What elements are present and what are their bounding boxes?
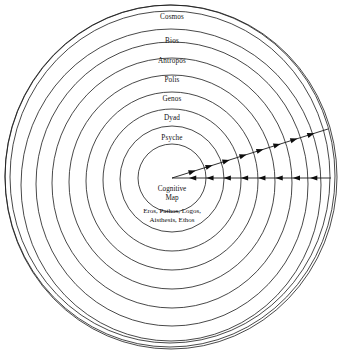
ring-label-genos: Genos (162, 95, 181, 103)
arrowhead-outward-ray-5 (256, 149, 264, 154)
arrowhead-outward-ray-1 (188, 170, 196, 175)
ring-label-cosmos: Cosmos (160, 13, 184, 21)
arrowhead-outward-ray-2 (205, 165, 213, 170)
arrowhead-outward-ray-4 (239, 154, 247, 159)
arrowhead-outward-ray-3 (222, 160, 230, 165)
ring-label-polis: Polis (164, 76, 179, 84)
arrowhead-outward-ray-7 (290, 138, 298, 143)
rays-group (172, 129, 331, 181)
ring-label-dyad: Dyad (164, 114, 180, 122)
arrowhead-inward-ray-7 (293, 175, 300, 180)
arrowhead-inward-ray-4 (241, 175, 248, 180)
ray-inward-ray (172, 175, 331, 180)
center-label-line1: Cognitive (158, 185, 186, 194)
arrowhead-inward-ray-2 (206, 175, 213, 180)
arrowhead-inward-ray-1 (189, 175, 196, 180)
diagram-canvas (0, 0, 340, 353)
center-label-line2: Map (158, 194, 186, 203)
arrowhead-inward-ray-5 (258, 175, 265, 180)
ring-label-psyche: Psyche (161, 134, 182, 142)
center-sublabel-line1: Eros, Pathos, Logos, (143, 207, 201, 216)
ring-3 (103, 109, 241, 251)
center-sublabel: Eros, Pathos, Logos, Aisthesis, Ethos (143, 207, 201, 224)
arrowhead-inward-ray-6 (276, 175, 283, 180)
ring-5 (69, 75, 275, 289)
arrowhead-inward-ray-3 (224, 175, 231, 180)
ring-label-antropos: Antropos (158, 57, 186, 65)
arrowhead-inward-ray-8 (310, 175, 317, 180)
center-sublabel-line2: Aisthesis, Ethos (143, 216, 201, 225)
cognitive-map-diagram: CosmosBiosAntroposPolisGenosDyadPsyche C… (0, 0, 340, 353)
arrowhead-outward-ray-6 (273, 144, 281, 149)
ring-7 (36, 42, 308, 326)
center-label: Cognitive Map (158, 185, 186, 203)
ring-label-bios: Bios (165, 37, 179, 45)
